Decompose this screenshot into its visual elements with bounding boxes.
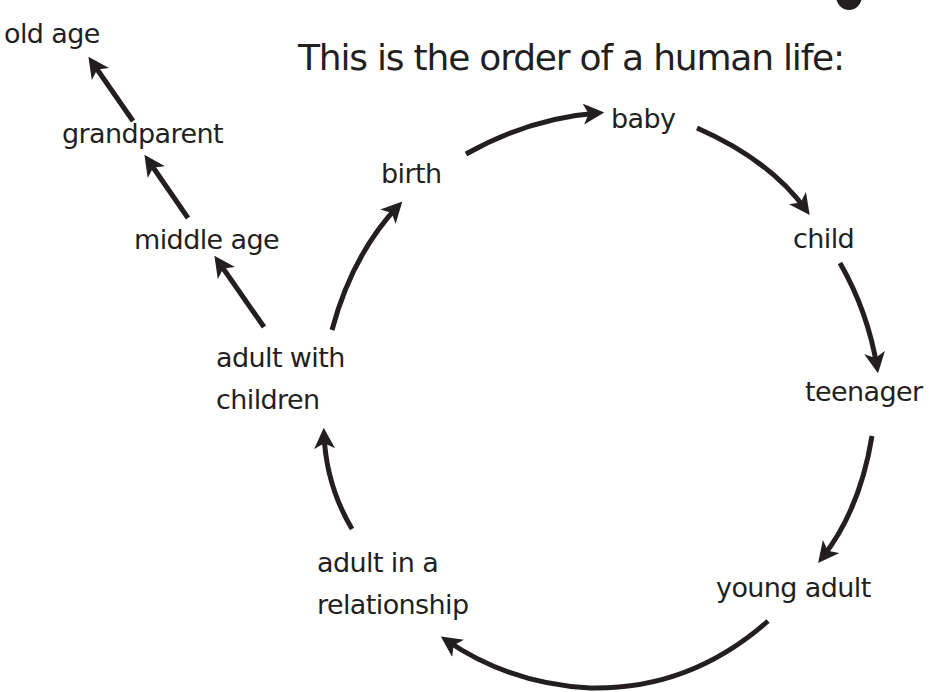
arrow-children-to-birth-icon — [332, 206, 398, 330]
arrow-birth-to-baby-icon — [466, 113, 598, 154]
node-grandparent: grandparent — [62, 117, 223, 151]
arrow-baby-to-child-icon — [697, 128, 806, 210]
node-old-age: old age — [4, 17, 100, 51]
node-teenager: teenager — [805, 375, 923, 409]
node-baby: baby — [611, 102, 675, 136]
node-adult-children-line1: adult with — [216, 341, 345, 375]
node-adult-relationship-line2: relationship — [317, 588, 469, 622]
arrow-relationship-to-children-icon — [324, 434, 352, 529]
node-adult-relationship-line1: adult in a — [317, 546, 438, 580]
arrow-young-adult-to-relationship-icon — [446, 621, 768, 688]
node-adult-children-line2: children — [216, 383, 320, 417]
node-middle-age: middle age — [134, 223, 279, 257]
node-young-adult: young adult — [716, 571, 871, 605]
arrow-middle-age-to-grandparent-icon — [148, 160, 188, 218]
node-child: child — [793, 222, 854, 256]
life-cycle-diagram: This is the order of a human life: — [0, 0, 942, 692]
arrow-child-to-teenager-icon — [840, 263, 877, 367]
node-birth: birth — [381, 157, 441, 191]
arrow-teenager-to-young-adult-icon — [822, 436, 872, 558]
arrow-grandparent-to-old-age-icon — [92, 62, 133, 121]
arrow-children-to-middle-age-icon — [218, 261, 264, 327]
